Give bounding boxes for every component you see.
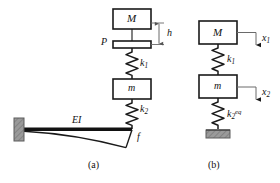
panel-b-label-disp-x2: x2 (262, 87, 270, 99)
panel-b-x1-subscript: 1 (266, 37, 270, 45)
diagram-svg (0, 0, 280, 183)
panel-b-label-spring-k2eq: k2eq (227, 109, 241, 121)
panel-a-label-plate-P: P (101, 37, 107, 47)
figure-container: M P k1 m k2 EI f h (a) M k1 m k2eq x1 x2… (0, 0, 280, 183)
panel-a-label-tip-force: f (137, 132, 140, 142)
panel-b-k1-subscript: 1 (231, 58, 235, 66)
panel-b-label-spring-k1: k1 (227, 54, 235, 66)
panel-a-label-spring-k1: k1 (140, 58, 148, 70)
panel-b-k2eq-superscript: eq (235, 108, 241, 115)
panel-a-label-mass-M: M (127, 13, 136, 24)
panel-b-label-mass-m: m (214, 81, 221, 91)
panel-a-k1-subscript: 1 (144, 62, 148, 70)
panel-a-label-spring-k2: k2 (140, 104, 148, 116)
panel-a-label-gap-h: h (167, 28, 172, 38)
panel-b-ground-support (206, 130, 230, 138)
panel-a-k2-subscript: 2 (144, 108, 148, 116)
panel-a-plate-P (113, 41, 151, 48)
panel-b-label-mass-M: M (213, 27, 222, 38)
panel-a-caption: (a) (88, 160, 99, 170)
panel-a-fixed-support (14, 118, 24, 141)
panel-a-label-mass-m: m (128, 83, 135, 93)
panel-b-x2-subscript: 2 (266, 91, 270, 99)
panel-b-label-disp-x1: x1 (262, 33, 270, 45)
panel-a-label-beam-rigidity: EI (72, 115, 81, 125)
panel-b-caption: (b) (208, 160, 220, 170)
